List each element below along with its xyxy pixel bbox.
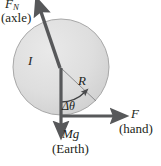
physics-diagram-figure: FN (axle) I R Δθ Mg (Earth) F (hand) <box>0 0 161 166</box>
inertia-label: I <box>28 54 32 67</box>
weight-source-label: (Earth) <box>52 142 89 155</box>
normal-force-source-label: (axle) <box>1 11 31 24</box>
angle-label: Δθ <box>62 100 75 112</box>
radius-label: R <box>78 74 86 87</box>
applied-force-source-label: (hand) <box>119 122 153 135</box>
applied-force-label: F <box>131 107 139 120</box>
weight-label: Mg <box>62 127 79 140</box>
